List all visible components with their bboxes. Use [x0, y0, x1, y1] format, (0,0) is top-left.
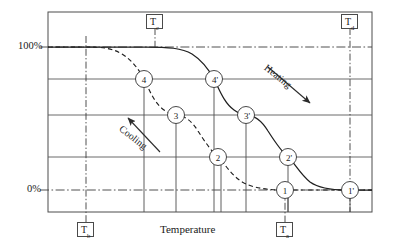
tc-sub: c [156, 24, 159, 31]
node-1p-label: 1' [348, 186, 355, 196]
node-2-label: 2 [216, 153, 221, 163]
ta-sub: a [286, 232, 289, 239]
plot-frame [48, 12, 372, 212]
x-axis-title: Temperature [160, 224, 215, 235]
temperature-marker-tc: Tc [146, 14, 163, 29]
y-tick-0: 0% [27, 184, 41, 195]
node-4-label: 4 [142, 75, 147, 85]
figure-container: 4 4' 3 3' 2 2' 1 1' 100% 0% Temperature … [0, 0, 395, 248]
temperature-marker-ta: Ta [276, 222, 293, 237]
y-tick-100: 100% [18, 41, 43, 52]
node-4p-label: 4' [212, 75, 219, 85]
temperature-marker-tb: Tb [77, 222, 94, 237]
tb-sub: b [87, 232, 90, 239]
node-3p-label: 3' [244, 111, 251, 121]
hysteresis-chart: 4 4' 3 3' 2 2' 1 1' [0, 0, 395, 248]
node-1-label: 1 [283, 186, 288, 196]
temperature-marker-td: Td [341, 14, 358, 29]
node-3-label: 3 [174, 111, 179, 121]
td-sub: d [351, 24, 354, 31]
node-2p-label: 2' [286, 153, 293, 163]
